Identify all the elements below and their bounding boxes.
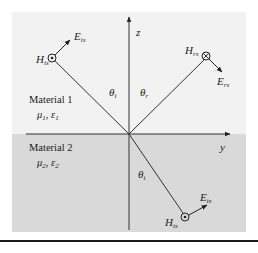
transmitted-h-out-of-page-icon [181,213,189,221]
bottom-rule [0,240,258,242]
reflected-h-into-page-icon [202,52,210,60]
reflection-refraction-diagram: z y Eis His Hrs Ers Ets Hts θi θr θt Mat… [0,0,258,253]
material1-name: Material 1 [29,94,72,105]
z-axis-label: z [135,26,141,38]
y-axis-label: y [219,141,225,153]
material2-name: Material 2 [29,142,72,153]
diagram-canvas: z y Eis His Hrs Ers Ets Hts θi θr θt Mat… [0,0,258,253]
incident-h-out-of-page-icon [48,54,56,62]
